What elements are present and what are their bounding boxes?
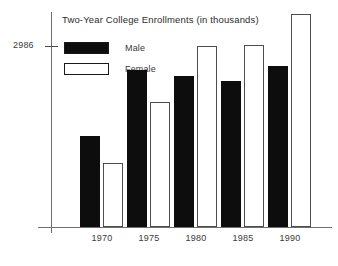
x-axis-label-1985: 1985 — [220, 233, 266, 243]
plot-area — [52, 12, 332, 227]
bar-female-1985 — [244, 45, 264, 227]
bar-male-1990 — [268, 66, 288, 227]
bar-female-1990 — [291, 14, 311, 227]
x-axis-line — [38, 227, 332, 228]
bar-female-1980 — [197, 46, 217, 227]
x-axis-label-1970: 1970 — [79, 233, 125, 243]
bar-female-1970 — [103, 163, 123, 227]
bar-female-1975 — [150, 102, 170, 227]
x-axis-label-1980: 1980 — [173, 233, 219, 243]
bar-male-1985 — [221, 81, 241, 227]
bar-male-1975 — [127, 70, 147, 227]
chart-container: Two-Year College Enrollments (in thousan… — [0, 0, 338, 266]
bar-male-1970 — [80, 136, 100, 227]
y-axis-tick-label: 2986 — [13, 40, 34, 50]
x-axis-label-1975: 1975 — [126, 233, 172, 243]
x-axis-label-1990: 1990 — [267, 233, 313, 243]
bar-male-1980 — [174, 76, 194, 227]
